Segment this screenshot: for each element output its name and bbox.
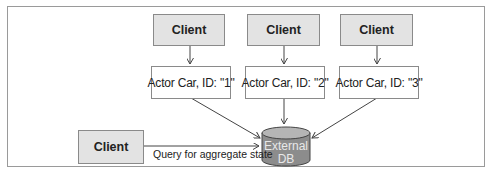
actor-label: Actor Car, ID: "3" xyxy=(336,76,423,90)
client-label: Client xyxy=(172,23,207,37)
client-label: Client xyxy=(266,23,301,37)
actor-box-1: Actor Car, ID: "1" xyxy=(151,66,231,99)
actor-box-2: Actor Car, ID: "2" xyxy=(245,66,325,99)
actor-label: Actor Car, ID: "1" xyxy=(148,76,235,90)
client-box-1: Client xyxy=(153,14,225,46)
client-label: Client xyxy=(359,23,394,37)
database-label-line2: DB xyxy=(262,153,310,166)
client-box-2: Client xyxy=(247,14,320,46)
actor-label: Actor Car, ID: "2" xyxy=(242,76,329,90)
client-box-bottom: Client xyxy=(78,130,144,164)
actor-box-3: Actor Car, ID: "3" xyxy=(339,66,419,99)
client-box-3: Client xyxy=(340,14,413,46)
database-label: External DB xyxy=(262,140,310,166)
query-label: Query for aggregate state xyxy=(153,148,273,160)
client-label: Client xyxy=(94,140,129,154)
